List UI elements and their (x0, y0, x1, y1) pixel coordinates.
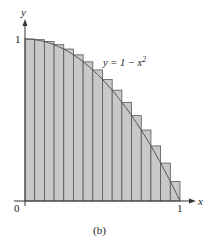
rectangle (103, 80, 113, 202)
rectangle (73, 55, 83, 201)
riemann-sum-figure: y x 1 0 1 y = 1 − x2 (b) (0, 0, 218, 242)
rectangle (122, 102, 132, 201)
x-tick-one: 1 (177, 202, 183, 214)
rectangle (54, 45, 64, 201)
origin-label: 0 (14, 202, 20, 214)
y-tick-one: 1 (15, 33, 21, 45)
rectangle (35, 40, 45, 201)
rectangle (141, 130, 151, 201)
rectangle (161, 163, 171, 201)
x-axis-label: x (197, 195, 203, 207)
rectangle (25, 39, 35, 201)
rectangle (44, 42, 54, 201)
rectangle (93, 70, 103, 201)
y-axis-label: y (20, 6, 26, 18)
rectangle (112, 90, 122, 201)
y-axis-arrow-icon (23, 19, 28, 26)
curve-equation-label: y = 1 − x2 (102, 55, 146, 68)
figure-caption: (b) (93, 224, 106, 237)
x-axis-arrow-icon (189, 199, 196, 204)
rectangle (64, 49, 74, 201)
rectangle (83, 62, 93, 201)
